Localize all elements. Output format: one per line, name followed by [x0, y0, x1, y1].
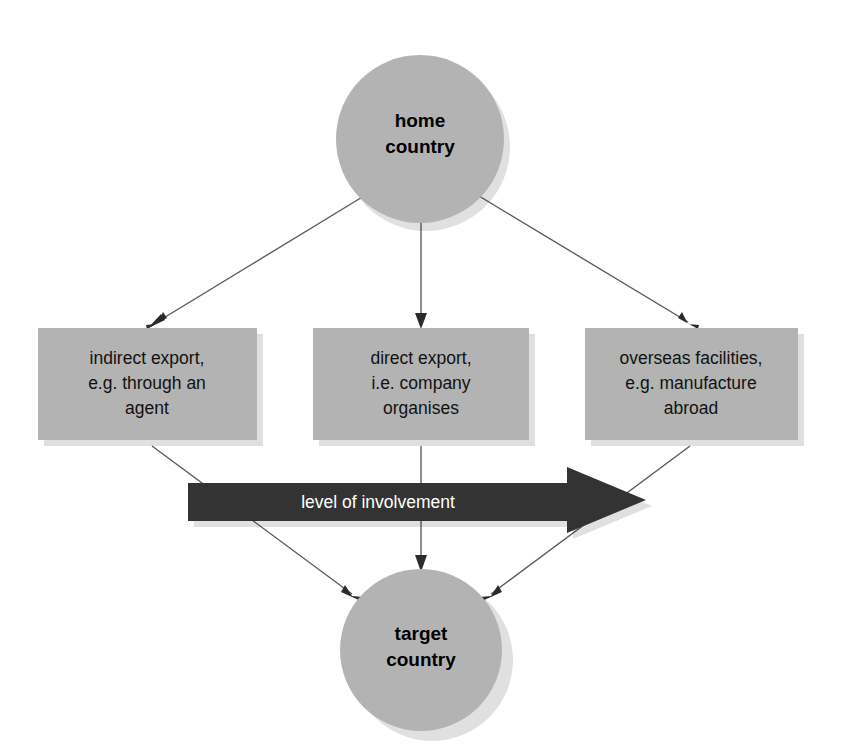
node-target-country-label-line1: target	[395, 623, 448, 644]
connector-home-to-direct-export	[415, 222, 427, 329]
node-target-country[interactable]: target country	[340, 569, 513, 741]
clipped-caption-text	[0, 0, 844, 1]
diagram-canvas: home country indirect export, e.g. throu…	[0, 0, 844, 753]
arrowhead-icon	[678, 312, 699, 329]
node-target-country-label-line2: country	[386, 649, 456, 670]
node-home-country[interactable]: home country	[336, 55, 510, 231]
level-of-involvement-arrow: level of involvement	[188, 467, 652, 539]
node-home-country-label-line1: home	[395, 110, 446, 131]
band-label: level of involvement	[301, 492, 455, 512]
market-entry-diagram: home country indirect export, e.g. throu…	[0, 0, 844, 753]
arrowhead-icon	[415, 313, 427, 329]
connector-home-to-indirect-export	[146, 196, 364, 329]
connector-home-to-overseas-facilities	[479, 196, 699, 329]
option-label-line3: abroad	[664, 398, 719, 418]
option-label-line3: organises	[383, 398, 459, 418]
option-label-line1: direct export,	[370, 348, 471, 368]
option-label-line2: e.g. manufacture	[625, 373, 756, 393]
option-box-indirect-export[interactable]: indirect export, e.g. through an agent	[38, 328, 263, 446]
option-label-line2: e.g. through an	[88, 373, 206, 393]
option-label-line2: i.e. company	[371, 373, 470, 393]
option-box-direct-export[interactable]: direct export, i.e. company organises	[313, 328, 535, 446]
option-label-line1: overseas facilities,	[620, 348, 763, 368]
connector-line	[479, 196, 688, 322]
option-label-line3: agent	[125, 398, 169, 418]
node-home-country-label-line2: country	[385, 136, 455, 157]
option-label-line1: indirect export,	[90, 348, 205, 368]
option-box-overseas-facilities[interactable]: overseas facilities, e.g. manufacture ab…	[585, 328, 804, 446]
connector-line	[157, 196, 364, 322]
